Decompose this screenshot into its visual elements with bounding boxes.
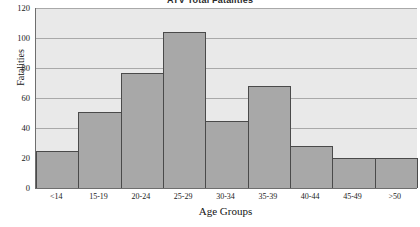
y-tick-label: 60 <box>6 93 30 103</box>
x-tick-label: <14 <box>35 192 77 201</box>
x-tick-label: 45-49 <box>331 192 373 201</box>
y-tick-label: 40 <box>6 123 30 133</box>
bar <box>248 86 291 188</box>
x-tick-label: 40-44 <box>289 192 331 201</box>
bar <box>36 151 79 189</box>
x-tick-label: 35-39 <box>247 192 289 201</box>
bar <box>332 158 375 188</box>
y-tick-label: 0 <box>6 183 30 193</box>
bar <box>163 32 206 188</box>
x-tick-label: 30-34 <box>204 192 246 201</box>
y-tick-label: 100 <box>6 33 30 43</box>
bar <box>205 121 248 189</box>
x-axis-tick-labels: <1415-1920-2425-2930-3435-3940-4445-49>5… <box>35 192 416 201</box>
y-tick-label: 80 <box>6 63 30 73</box>
bar <box>290 146 333 188</box>
x-tick-label: 25-29 <box>162 192 204 201</box>
bar <box>121 73 164 189</box>
chart-title: ATV Total Fatalities <box>0 0 420 7</box>
y-axis-tick-labels: 020406080100120 <box>6 8 30 188</box>
x-axis-title: Age Groups <box>35 205 416 217</box>
bar <box>78 112 121 189</box>
plot-area <box>35 8 417 189</box>
bar <box>375 158 418 188</box>
x-tick-label: >50 <box>374 192 416 201</box>
bar-series <box>36 8 417 188</box>
x-tick-label: 20-24 <box>120 192 162 201</box>
chart-figure: ATV Total Fatalities Fatalities 02040608… <box>0 0 420 227</box>
x-tick-label: 15-19 <box>77 192 119 201</box>
y-tick-label: 20 <box>6 153 30 163</box>
y-tick-label: 120 <box>6 3 30 13</box>
